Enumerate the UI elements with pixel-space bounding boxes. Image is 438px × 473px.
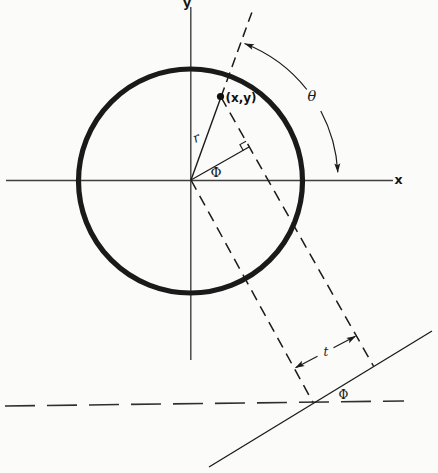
theta-label: θ: [308, 88, 317, 104]
figure-canvas: y x (x,y) r Φ θ t Φ: [0, 0, 438, 473]
theta-arc-upper: [245, 44, 307, 90]
point-dot: [217, 93, 224, 100]
t-label: t: [324, 345, 329, 359]
phi-bottom-label: Φ: [339, 388, 349, 402]
theta-arc-lower: [321, 111, 338, 172]
radius-label: r: [190, 129, 202, 146]
projection-axis-line: [209, 331, 432, 467]
y-axis-label: y: [183, 0, 191, 10]
x-axis-label: x: [395, 172, 403, 187]
phi-label: Φ: [211, 164, 222, 180]
ray-through-point-dashed-line: [221, 97, 373, 366]
t-arrow-left-icon: [294, 361, 305, 371]
geometry-diagram: y x (x,y) r Φ θ t Φ: [0, 0, 438, 473]
theta-arrow-top-icon: [243, 41, 254, 50]
point-label: (x,y): [226, 91, 257, 105]
